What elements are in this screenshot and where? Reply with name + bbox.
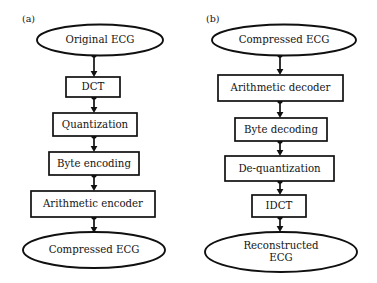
compressed-ecg-label: Compressed ECG xyxy=(49,244,140,255)
node-reconstructed-ecg: ReconstructedECG xyxy=(205,232,357,272)
panels-root: (a)Original ECGDCTQuantizationByte encod… xyxy=(22,13,357,273)
flowchart-diagram: (a)Original ECGDCTQuantizationByte encod… xyxy=(0,0,377,283)
reconstructed-ecg-label-line2: ECG xyxy=(269,252,292,263)
node-compressed-ecg: Compressed ECG xyxy=(212,25,356,56)
node-de-quantization: De-quantization xyxy=(225,156,334,181)
arithmetic-encoder-label: Arithmetic encoder xyxy=(42,198,143,209)
connector-arrowhead xyxy=(91,146,98,152)
connector-arrowhead xyxy=(277,189,284,195)
node-arithmetic-encoder: Arithmetic encoder xyxy=(31,191,155,217)
connector-arrowhead xyxy=(277,112,284,118)
figure-canvas: (a)Original ECGDCTQuantizationByte encod… xyxy=(0,0,377,283)
panel-a: (a)Original ECGDCTQuantizationByte encod… xyxy=(22,13,165,269)
panel-a-caption: (a) xyxy=(22,13,35,24)
node-original-ecg: Original ECG xyxy=(37,25,163,56)
node-idct: IDCT xyxy=(252,195,306,217)
node-byte-decoding: Byte decoding xyxy=(235,118,327,141)
connector-arrowhead xyxy=(277,69,284,75)
original-ecg-label: Original ECG xyxy=(66,34,135,45)
connector-arrowhead xyxy=(91,185,98,191)
connector-arrowhead xyxy=(91,71,98,77)
byte-decoding-label: Byte decoding xyxy=(244,124,318,135)
dct-label: DCT xyxy=(82,81,105,92)
panel-b: (b)Compressed ECGArithmetic decoderByte … xyxy=(205,13,357,273)
de-quantization-label: De-quantization xyxy=(238,163,321,174)
reconstructed-ecg-label-line1: Reconstructed xyxy=(243,240,319,251)
connector-arrowhead xyxy=(277,150,284,156)
panel-b-caption: (b) xyxy=(206,13,220,24)
node-arithmetic-decoder: Arithmetic decoder xyxy=(218,75,343,101)
byte-encoding-label: Byte encoding xyxy=(57,158,131,169)
node-compressed-ecg: Compressed ECG xyxy=(23,232,165,268)
quantization-label: Quantization xyxy=(62,119,129,130)
idct-label: IDCT xyxy=(266,200,293,211)
node-byte-encoding: Byte encoding xyxy=(49,152,139,175)
node-dct: DCT xyxy=(66,77,120,97)
node-quantization: Quantization xyxy=(53,113,137,136)
connector-arrowhead xyxy=(91,107,98,113)
compressed-ecg-label: Compressed ECG xyxy=(239,34,330,45)
arithmetic-decoder-label: Arithmetic decoder xyxy=(230,82,331,93)
